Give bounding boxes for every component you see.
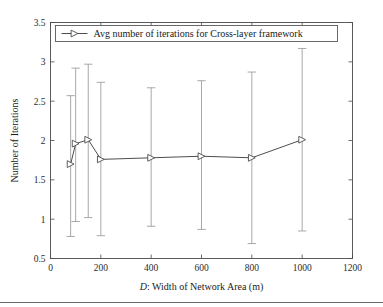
x-tick-label: 200 (94, 263, 109, 273)
x-tick-label: 400 (144, 263, 159, 273)
y-tick-label: 3.5 (34, 18, 46, 28)
chart-svg: 0200400600800100012000.511.522.533.5D: W… (0, 0, 383, 307)
x-tick-label: 0 (48, 263, 53, 273)
x-tick-label: 600 (194, 263, 209, 273)
x-axis-title-text: : Width of Network Area (m) (147, 281, 263, 293)
x-axis-title: D: Width of Network Area (m) (139, 281, 264, 293)
y-tick-label: 2.5 (34, 97, 46, 107)
series-markers (67, 136, 305, 167)
y-tick-label: 1 (41, 215, 46, 225)
x-tick-label: 1200 (343, 263, 362, 273)
figure-container: 0200400600800100012000.511.522.533.5D: W… (0, 0, 383, 307)
series-line (71, 140, 303, 164)
y-axis-title: Number of Iterations (9, 98, 20, 182)
y-tick-label: 0.5 (34, 254, 46, 264)
x-tick-label: 800 (245, 263, 260, 273)
errorbar-group (66, 48, 306, 243)
x-tick-label: 1000 (293, 263, 312, 273)
y-tick-label: 1.5 (34, 175, 46, 185)
y-tick-label: 2 (41, 136, 46, 146)
y-tick-label: 3 (41, 57, 46, 67)
legend-label: Avg number of iterations for Cross-layer… (94, 28, 303, 39)
